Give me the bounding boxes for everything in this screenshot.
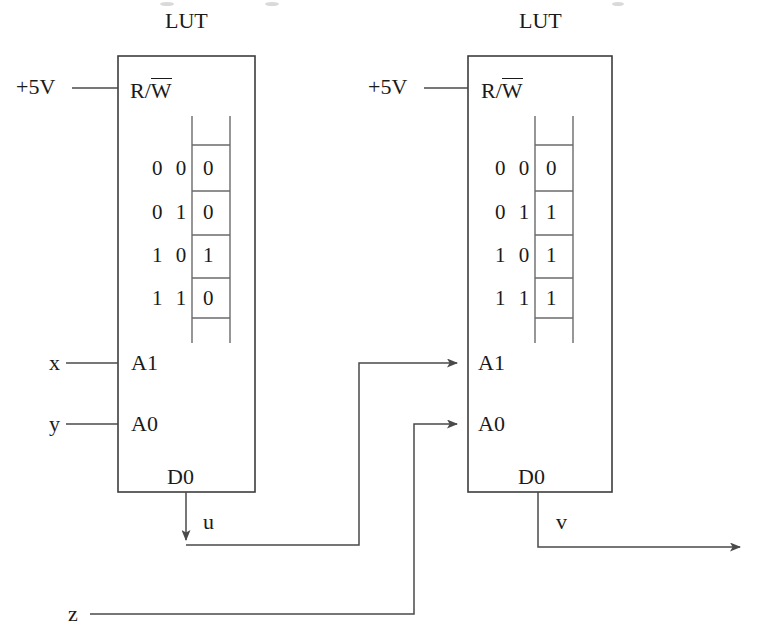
left-tt-row-addr: 1 0	[152, 245, 190, 266]
v-output-wire	[538, 492, 740, 547]
right-tt-row-addr: 1 1	[495, 288, 533, 309]
left-tt-row-value: 1	[203, 245, 214, 266]
signal-label-y: y	[49, 413, 60, 435]
right-rw-pin: R/W	[481, 78, 523, 102]
u-wire-route-to-a1	[186, 363, 457, 545]
right-rw-overbar-w: W	[502, 78, 523, 102]
left-pin-a1: A1	[131, 352, 158, 374]
left-tt-row-value: 0	[203, 158, 214, 179]
lut-circuit-diagram: LUT LUT +5V +5V R/W R/W 0 0 0 0 1 0 1 0 …	[0, 0, 763, 637]
left-tt-row-addr: 1 1	[152, 288, 190, 309]
left-tt-row-addr: 0 0	[152, 158, 190, 179]
signal-label-x: x	[49, 352, 60, 374]
right-tt-row-value: 1	[546, 288, 557, 309]
right-tt-row-addr: 0 1	[495, 202, 533, 223]
left-rw-overbar-w: W	[151, 78, 172, 102]
left-tt-row-value: 0	[203, 202, 214, 223]
left-pin-d0: D0	[167, 466, 194, 488]
right-tt-row-value: 1	[546, 245, 557, 266]
right-tt-row-addr: 0 0	[495, 158, 533, 179]
right-pin-a0: A0	[478, 413, 505, 435]
left-tt-row-addr: 0 1	[152, 202, 190, 223]
right-tt-row-addr: 1 0	[495, 245, 533, 266]
left-tt-row-value: 0	[203, 288, 214, 309]
left-lut-title: LUT	[165, 10, 208, 32]
signal-label-v: v	[556, 511, 567, 533]
left-pin-a0: A0	[131, 413, 158, 435]
right-tt-row-value: 1	[546, 202, 557, 223]
z-wire-route-to-a0	[90, 424, 457, 614]
right-pin-d0: D0	[518, 466, 545, 488]
right-lut-title: LUT	[519, 10, 562, 32]
power-label-left: +5V	[16, 76, 55, 98]
signal-label-z: z	[68, 603, 78, 625]
right-rw-prefix: R/	[481, 78, 502, 103]
right-pin-a1: A1	[478, 352, 505, 374]
left-rw-prefix: R/	[130, 78, 151, 103]
left-rw-pin: R/W	[130, 78, 172, 102]
power-label-right: +5V	[368, 76, 407, 98]
signal-label-u: u	[203, 511, 214, 533]
right-tt-row-value: 0	[546, 158, 557, 179]
